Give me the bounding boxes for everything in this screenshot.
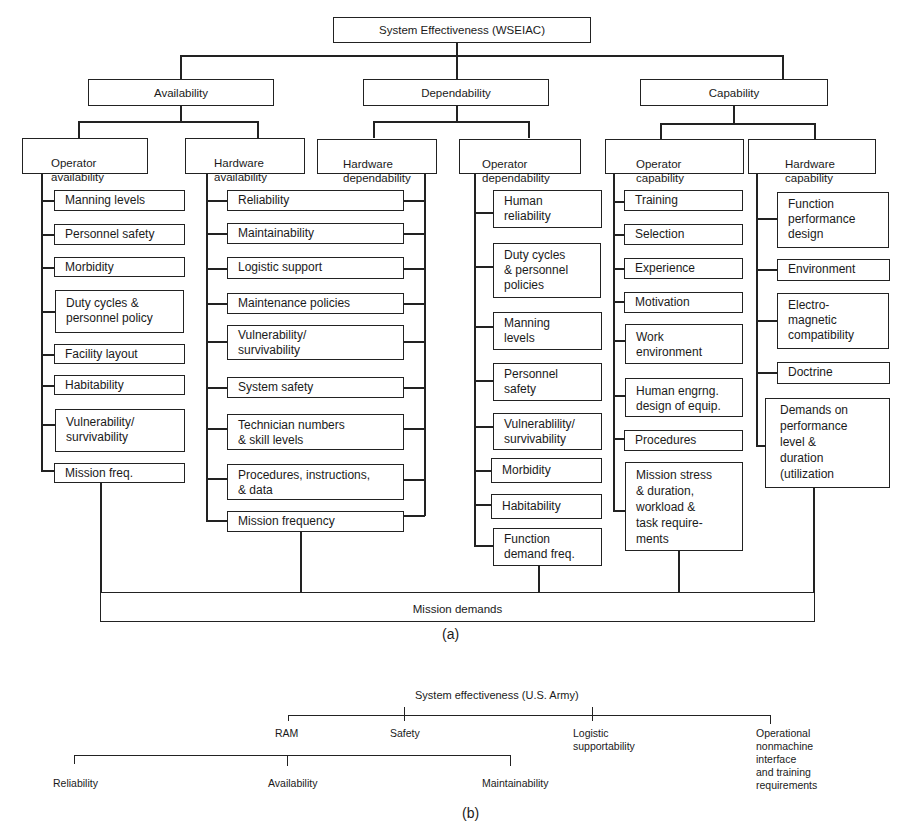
connector (41, 354, 55, 356)
connector (206, 303, 228, 305)
connector (474, 545, 494, 547)
item-mission-stress: Mission stress & duration, workload & ta… (625, 462, 743, 551)
node-operator-capability: Operator capability (605, 139, 744, 174)
connector (404, 268, 425, 270)
node-hardware-availability: Hardware availability (185, 138, 305, 174)
connector (74, 755, 511, 756)
item-morbidity-dep: Morbidity (491, 458, 602, 483)
node-maintainability: Maintainability (482, 777, 549, 790)
node-label: Operator availability (51, 157, 104, 183)
node-operational-nonmachine: Operational nonmachine interface and tra… (756, 727, 817, 792)
caption-b: (b) (462, 805, 479, 821)
connector (404, 707, 405, 721)
item-label: Vulnerability/ survivability (66, 415, 134, 444)
item-personnel-safety: Personnel safety (54, 224, 185, 245)
item-label: Training (635, 193, 678, 207)
item-habitability-dep: Habitability (491, 494, 602, 519)
item-label: Environment (788, 262, 855, 276)
item-label: Technician numbers & skill levels (238, 418, 345, 447)
item-label: Mission frequency (238, 514, 335, 528)
item-label: Selection (635, 227, 684, 241)
connector (678, 551, 680, 593)
connector (41, 174, 43, 470)
item-label: Morbidity (502, 463, 551, 477)
item-morbidity: Morbidity (54, 257, 185, 277)
connector (206, 174, 208, 521)
item-label: Doctrine (788, 365, 833, 379)
connector (456, 106, 458, 121)
connector (373, 121, 375, 138)
item-label: Procedures (635, 433, 696, 447)
connector (41, 424, 55, 426)
item-function-performance-design: Function performance design (777, 192, 889, 248)
connector (756, 269, 778, 271)
connector (287, 755, 288, 766)
node-availability: Availability (88, 79, 274, 106)
item-label: Function demand freq. (504, 532, 575, 561)
item-selection: Selection (624, 224, 743, 245)
connector (206, 268, 228, 270)
node-hardware-capability: Hardware capability (748, 139, 876, 174)
item-system-safety: System safety (227, 377, 404, 398)
connector (206, 387, 228, 389)
item-human-engineering: Human engrng. design of equip. (625, 378, 743, 417)
item-technician-numbers: Technician numbers & skill levels (227, 414, 404, 450)
connector (180, 106, 182, 121)
connector (206, 520, 228, 522)
item-logistic-support: Logistic support (227, 257, 404, 279)
connector (288, 715, 289, 721)
item-electromagnetic-compatibility: Electro- magnetic compatibility (777, 293, 889, 349)
connector (206, 478, 228, 480)
connector (404, 479, 425, 481)
item-label: Human reliability (504, 194, 551, 223)
item-training: Training (624, 190, 743, 211)
connector (592, 707, 593, 721)
connector (660, 123, 662, 139)
connector (456, 43, 458, 80)
connector (180, 55, 182, 79)
item-facility-layout: Facility layout (54, 344, 185, 364)
node-capability: Capability (640, 79, 828, 106)
connector (404, 341, 425, 343)
connector (300, 532, 302, 593)
item-motivation: Motivation (624, 292, 743, 313)
item-vulnerability-hw: Vulnerability/ survivability (227, 325, 404, 360)
connector (41, 200, 55, 202)
item-label: Manning levels (504, 316, 550, 345)
item-demands-on-performance: Demands on performance level & duration … (765, 398, 890, 488)
item-label: Human engrng. design of equip. (636, 384, 721, 413)
item-label: Motivation (635, 295, 690, 309)
connector (404, 387, 425, 389)
connector (100, 483, 102, 593)
connector (257, 121, 259, 138)
node-reliability: Reliability (53, 777, 98, 790)
connector (813, 488, 815, 593)
item-maintenance-policies: Maintenance policies (227, 293, 404, 314)
node-label: Hardware availability (214, 157, 267, 183)
item-label: Maintainability (238, 226, 314, 240)
item-doctrine: Doctrine (777, 362, 890, 384)
item-duty-cycles: Duty cycles & personnel policy (55, 290, 184, 333)
connector (74, 755, 75, 764)
connector (733, 106, 735, 123)
connector (756, 174, 758, 446)
item-label: Reliability (238, 193, 289, 207)
item-label: Work environment (636, 330, 702, 359)
connector (528, 121, 530, 138)
item-label: Logistic support (238, 260, 322, 274)
item-label: System safety (238, 380, 313, 394)
item-label: Electro- magnetic compatibility (788, 298, 854, 342)
item-label: Procedures, instructions, & data (238, 468, 370, 497)
item-manning-levels-dep: Manning levels (493, 312, 602, 350)
item-mission-freq: Mission freq. (54, 463, 185, 483)
node-label: Operator dependability (482, 158, 550, 184)
node-label: Operator capability (636, 158, 684, 184)
item-label: Personnel safety (65, 227, 154, 241)
item-label: Demands on performance level & duration … (780, 403, 848, 481)
item-label: Duty cycles & personnel policy (66, 296, 153, 325)
node-label: System Effectiveness (WSEIAC) (379, 23, 545, 37)
connector (782, 55, 784, 79)
connector (41, 470, 55, 472)
connector (404, 428, 425, 430)
connector (474, 266, 494, 268)
